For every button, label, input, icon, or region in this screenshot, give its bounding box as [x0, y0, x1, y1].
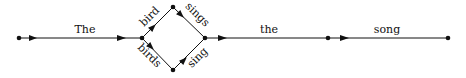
arrow-icon — [218, 35, 227, 41]
node-top — [171, 5, 176, 10]
edge-label-sing: sing — [185, 45, 211, 71]
node-split — [140, 36, 145, 41]
edge-label-birds: birds — [135, 41, 165, 71]
edge-label-sings: sings — [183, 0, 213, 30]
edge-label-the-upper: The — [75, 23, 96, 36]
edge-label-the-lower: the — [260, 23, 278, 36]
arrow-icon — [29, 35, 37, 41]
node-merge — [203, 36, 208, 41]
edge-label-bird: bird — [137, 4, 162, 29]
node-mid — [326, 36, 331, 41]
edge-label-song: song — [374, 23, 400, 36]
node-start — [17, 36, 22, 41]
node-bottom — [171, 68, 176, 73]
word-lattice-diagram: The bird birds sings sing the song — [0, 0, 466, 78]
arrow-icon — [117, 35, 126, 41]
arrow-icon — [340, 35, 349, 41]
node-end — [446, 36, 451, 41]
